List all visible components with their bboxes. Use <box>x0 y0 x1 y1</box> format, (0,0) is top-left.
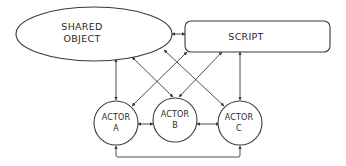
shared-object-label-line1: SHARED <box>61 21 102 32</box>
node-actor-c: ACTOR C <box>218 101 262 145</box>
actor-a-label-line2: A <box>113 124 119 133</box>
shared-object-label-line2: OBJECT <box>63 33 100 44</box>
actor-c-label-line2: C <box>236 124 242 133</box>
edge-script-actor-b <box>179 52 222 97</box>
actor-c-label-line1: ACTOR <box>225 113 254 122</box>
node-shared-object: SHARED OBJECT <box>16 7 172 61</box>
actor-b-label-line1: ACTOR <box>161 110 190 119</box>
actor-a-label-line1: ACTOR <box>102 113 131 122</box>
node-actor-b: ACTOR B <box>153 98 197 142</box>
script-label: SCRIPT <box>228 31 263 42</box>
node-actor-a: ACTOR A <box>94 101 138 145</box>
edge-shared-object-actor-b <box>132 57 173 97</box>
node-script: SCRIPT <box>185 21 330 52</box>
edge-actor-a-actor-c <box>116 146 240 157</box>
diagram-canvas: SHARED OBJECT SCRIPT ACTOR A ACTOR B ACT… <box>0 0 346 166</box>
actor-b-label-line2: B <box>172 121 178 130</box>
